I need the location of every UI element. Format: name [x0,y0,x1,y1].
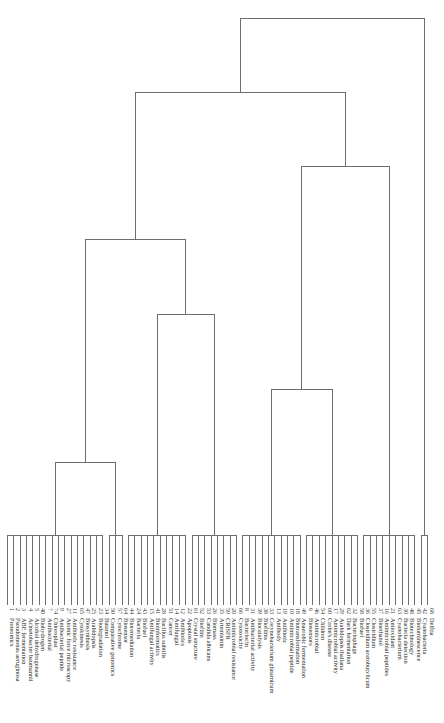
leaf-label: Crohn's disease [327,618,334,657]
leaf-number: 51 [168,608,174,614]
leaf-number: 45 [416,608,422,614]
leaf-number: 22 [187,608,193,614]
leaf-label: Acinetobacter baumannii [28,618,35,682]
dendrogram-chart: 1Proteomics2Pseudomonas aeruginosa3ABE f… [0,0,444,723]
leaf-label: Biosensor [123,618,130,644]
leaf-label: CRISPR [225,618,232,641]
leaf-label: Artemisinin [219,618,226,649]
leaf-number: 7 [47,608,53,611]
leaf-number: 43 [142,608,148,614]
leaf-label: Pseudomonas aeruginosa [15,618,22,682]
leaf-number: 52 [199,608,205,614]
leaf-number: 10 [289,608,295,614]
leaf-number: 27 [66,608,72,614]
leaf-number: 38 [263,608,269,614]
leaf-label: Bioluminescence [416,618,423,662]
leaf-number: 1 [9,608,15,611]
leaf-label: Bacillus subtilis [161,618,168,659]
leaf-label: Antimicrobial [314,618,321,654]
leaf-label: Apoptosis [187,618,194,644]
leaf-label: Antimicrobial peptide [289,618,296,674]
leaf-label: Biocatalysis [257,618,264,649]
leaf-number: 59 [225,608,231,614]
leaf-number: 41 [155,608,161,614]
leaf-label: Biotransformation [295,618,302,665]
leaf-label: Antibacterial activity [250,618,257,672]
leaf-number: 64 [123,608,129,614]
leaf-number: 25 [91,608,97,614]
leaf-number: 48 [409,608,415,614]
leaf-number: 40 [40,608,46,614]
leaf-label: Comparative genomics [110,618,117,677]
leaf-number: 33 [269,608,275,614]
leaf-label: Antibody [276,618,283,643]
leaf-number: 47 [85,608,91,614]
leaf-label: Proteomics [9,618,16,647]
leaf-label: Cyanobacteria [422,618,429,655]
leaf-number: 61 [193,608,199,614]
leaf-number: 29 [339,608,345,614]
leaf-label: Antimicrobial activity [333,618,340,675]
leaf-label: Biofilms [263,618,270,641]
leaf-number: 32 [352,608,358,614]
leaf-label: Atomic force microscopy [66,618,73,683]
leaf-number: 8 [244,608,250,611]
leaf-number: 66 [238,608,244,614]
leaf-label: Biomass [212,618,219,640]
leaf-label: Clostridium acetobutylicum [365,618,372,689]
leaf-number: 5 [34,608,40,611]
leaf-label: Biotechnology [409,618,416,656]
leaf-label: Bioremediation [129,618,136,658]
leaf-number: 34 [104,608,110,614]
leaf-number: 42 [422,608,428,614]
leaf-label: Cytochrome [117,618,124,649]
leaf-label: ABE fermentation [21,618,28,665]
leaf-number: 12 [180,608,186,614]
leaf-label: Antifungal [174,618,181,646]
leaf-number: 13 [276,608,282,614]
leaf-label: Arabidopsis thaliana [339,618,346,670]
leaf-number: 3 [21,608,27,611]
dendrogram-links [8,18,428,605]
leaf-label: Cancer [168,618,175,637]
leaf-label: Biofuel [359,618,366,637]
leaf-label: Corynebacterium glutamicum [269,618,276,693]
leaf-label: Biodegradation [98,618,105,658]
leaf-number: 68 [429,608,435,614]
leaf-number: 31 [250,608,256,614]
leaf-number: 54 [320,608,326,614]
leaf-number: 65 [79,608,85,614]
leaf-number: 14 [174,608,180,614]
leaf-label: Clostridium [371,618,378,648]
leaf-label: Cytokinesis [79,618,86,648]
leaf-label: Biosensors [308,618,315,646]
leaf-number: 26 [212,608,218,614]
leaf-number: 15 [149,608,155,614]
leaf-number: 16 [384,608,390,614]
leaf-label: Bacteriocin [244,618,251,648]
leaf-number: 2 [15,608,21,611]
leaf-number: 36 [365,608,371,614]
leaf-number: 50 [110,608,116,614]
leaf-number: 74 [53,608,59,614]
leaf-label: Bacteriophage [352,618,359,655]
leaf-label: Antimicrobial peptides [384,618,391,676]
leaf-number: 44 [129,608,135,614]
leaf-number: 28 [161,608,167,614]
leaf-number: 9 [59,608,65,611]
leaf-number: 21 [390,608,396,614]
leaf-label: Cytotoxicity [238,618,245,650]
leaf-label: Antibiotic resistance [72,618,79,670]
leaf-number: 58 [359,608,365,614]
leaf-label: Bacteria [136,618,143,639]
leaf-label: Bacteria detection [403,618,410,664]
leaf-number: 57 [117,608,123,614]
leaf-label: Biosynthesis [85,618,92,651]
leaf-number: 53 [206,608,212,614]
leaf-label: Alcohol dehydrogenase [34,618,41,678]
leaf-number: 30 [403,608,409,614]
leaf-label: Antibacterial peptide [59,618,66,671]
leaf-label: Antifungal activity [149,618,156,667]
leaf-label: Antibiotic [282,618,289,644]
leaf-number: 24 [136,608,142,614]
